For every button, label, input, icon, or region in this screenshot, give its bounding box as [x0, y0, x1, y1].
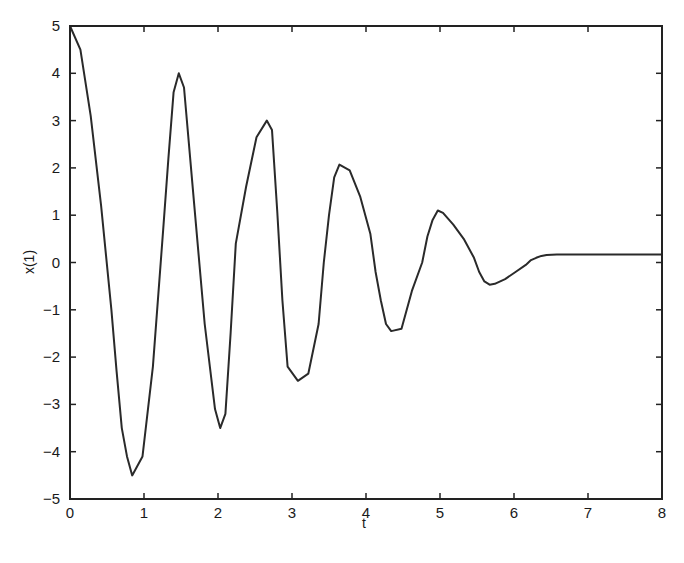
y-tick-label: 4: [52, 64, 60, 81]
y-tick-label: −3: [43, 395, 60, 412]
y-tick-label: −2: [43, 348, 60, 365]
x-tick-label: 7: [584, 504, 592, 521]
x-tick-label: 1: [140, 504, 148, 521]
y-tick-label: 2: [52, 159, 60, 176]
x-tick-label: 3: [288, 504, 296, 521]
x-tick-label: 0: [66, 504, 74, 521]
x-axis-label: t: [362, 515, 366, 531]
axis-ticks: [70, 26, 662, 499]
y-tick-label: 0: [52, 254, 60, 271]
x-tick-label: 8: [658, 504, 666, 521]
series-x1-line: [70, 26, 662, 475]
y-axis-label: x(1): [21, 250, 37, 274]
y-tick-label: −1: [43, 301, 60, 318]
y-tick-label: 3: [52, 112, 60, 129]
axes-frame: [70, 26, 662, 499]
y-tick-label: −5: [43, 490, 60, 507]
x-tick-label: 5: [436, 504, 444, 521]
x-tick-labels: 012345678: [66, 504, 666, 521]
y-tick-label: 1: [52, 206, 60, 223]
x-tick-label: 6: [510, 504, 518, 521]
y-tick-label: 5: [52, 17, 60, 34]
x-tick-label: 2: [214, 504, 222, 521]
line-chart: 012345678 −5−4−3−2−1012345 t x(1): [0, 0, 684, 563]
y-tick-labels: −5−4−3−2−1012345: [43, 17, 60, 507]
y-tick-label: −4: [43, 443, 60, 460]
